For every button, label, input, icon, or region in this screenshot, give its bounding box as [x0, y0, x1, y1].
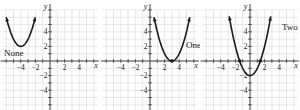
y-tick-label: 4: [44, 27, 48, 36]
x-axis-label: x: [293, 61, 298, 70]
x-tick-label: −4: [17, 63, 25, 72]
x-tick-label: 2: [63, 63, 67, 72]
x-tick-label: −2: [31, 63, 39, 72]
y-axis-label: y: [143, 2, 148, 11]
x-tick-label: −2: [131, 63, 139, 72]
y-tick-label: −2: [140, 71, 148, 80]
parabola-graph: −4−22442−2−4xyNone: [0, 0, 100, 110]
y-tick-label: 4: [244, 27, 248, 36]
x-tick-label: 4: [177, 63, 181, 72]
y-tick-label: −2: [240, 71, 248, 80]
x-axis-label: x: [193, 61, 198, 70]
parabola-graph: −4−22442−2−4xyOne: [100, 0, 200, 110]
y-tick-label: −4: [40, 86, 48, 95]
parabola-graph: −4−22442−2−4xyTwo: [200, 0, 300, 110]
x-intercept-point: [170, 59, 173, 62]
x-tick-label: −4: [217, 63, 225, 72]
x-axis-label: x: [93, 61, 98, 70]
solution-count-label: Two: [282, 22, 298, 32]
x-intercept-point: [259, 59, 262, 62]
solution-count-label: One: [186, 40, 200, 50]
x-tick-label: 2: [263, 63, 267, 72]
y-tick-label: 4: [144, 27, 148, 36]
x-tick-label: −2: [231, 63, 239, 72]
x-intercept-point: [238, 59, 241, 62]
y-tick-label: 2: [44, 42, 48, 51]
graph-panel-two: −4−22442−2−4xyTwo: [200, 0, 300, 110]
y-axis-label: y: [243, 2, 248, 11]
y-tick-label: −4: [140, 86, 148, 95]
y-tick-label: −2: [40, 71, 48, 80]
graph-panel-one: −4−22442−2−4xyOne: [100, 0, 200, 110]
x-tick-label: 2: [163, 63, 167, 72]
solution-count-label: None: [4, 48, 24, 58]
x-tick-label: −4: [117, 63, 125, 72]
graph-panel-none: −4−22442−2−4xyNone: [0, 0, 100, 110]
y-tick-label: 2: [144, 42, 148, 51]
y-axis-label: y: [43, 2, 48, 11]
y-tick-label: 2: [244, 42, 248, 51]
x-tick-label: 4: [77, 63, 81, 72]
x-tick-label: 4: [277, 63, 281, 72]
y-tick-label: −4: [240, 86, 248, 95]
